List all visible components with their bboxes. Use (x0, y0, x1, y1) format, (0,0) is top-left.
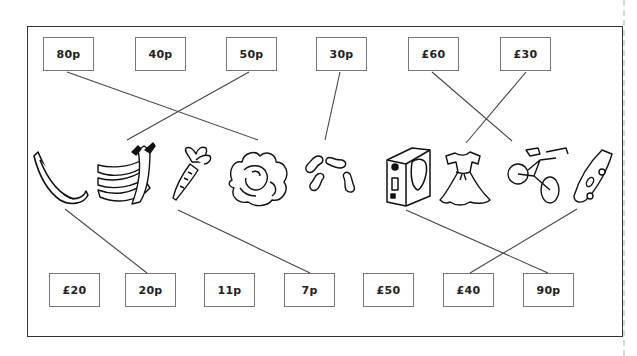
connection-line-1 (67, 72, 258, 140)
matching-lines-layer (0, 0, 637, 356)
skateboard-icon (574, 150, 612, 202)
banana-icon (34, 152, 88, 203)
carrot-icon (173, 147, 211, 200)
connection-line-4 (432, 72, 512, 141)
connection-line-7 (178, 210, 310, 273)
game-box-icon (387, 148, 430, 206)
bicycle-icon (508, 148, 568, 203)
banana-bunch-icon (98, 143, 155, 204)
connection-line-9 (470, 209, 577, 273)
lettuce-icon (229, 153, 287, 206)
dress-icon (440, 152, 490, 205)
connection-line-5 (466, 72, 526, 143)
connection-line-3 (325, 72, 340, 140)
peanuts-icon (306, 156, 354, 192)
connection-line-6 (65, 209, 147, 273)
connection-line-8 (406, 210, 548, 273)
